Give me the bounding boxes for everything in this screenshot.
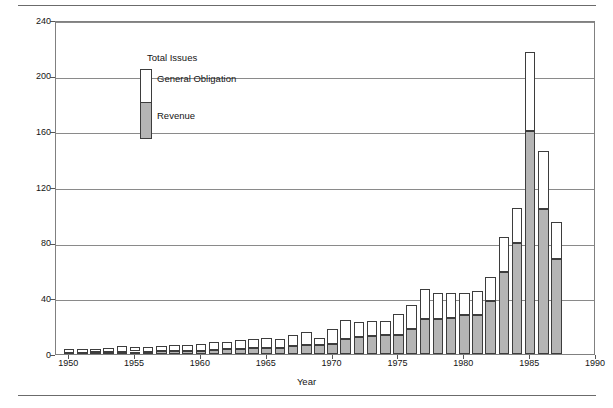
bar-1965 xyxy=(261,338,272,354)
bar-segment-revenue-1961 xyxy=(209,350,220,354)
bar-segment-revenue-1985 xyxy=(525,131,536,354)
plot-area: Total Issues General Obligation Revenue xyxy=(55,21,595,355)
bar-1970 xyxy=(327,329,338,354)
bar-segment-general-obligation-1972 xyxy=(354,322,365,337)
bar-1955 xyxy=(130,347,141,354)
bar-segment-revenue-1970 xyxy=(327,344,338,354)
bar-segment-general-obligation-1978 xyxy=(433,293,444,319)
bar-1951 xyxy=(77,349,88,354)
bar-1976 xyxy=(406,305,417,354)
bar-1979 xyxy=(446,293,457,354)
bar-1964 xyxy=(248,339,259,354)
bar-segment-revenue-1967 xyxy=(288,346,299,354)
bar-segment-general-obligation-1961 xyxy=(209,342,220,350)
bar-1986 xyxy=(538,151,549,354)
y-tick-mark-160 xyxy=(50,132,55,133)
bar-1980 xyxy=(459,293,470,354)
bar-1987 xyxy=(551,222,562,354)
bar-segment-general-obligation-1984 xyxy=(512,208,523,243)
legend-swatch-general-obligation xyxy=(140,69,152,103)
bar-segment-revenue-1971 xyxy=(340,339,351,354)
bar-segment-general-obligation-1968 xyxy=(301,332,312,345)
y-tick-label-200: 200 xyxy=(11,72,51,81)
y-tick-mark-120 xyxy=(50,188,55,189)
y-tick-label-160: 160 xyxy=(11,128,51,137)
x-tick-mark-1990 xyxy=(595,355,596,359)
x-tick-label-1980: 1980 xyxy=(453,359,473,368)
bar-segment-general-obligation-1964 xyxy=(248,339,259,348)
bar-1973 xyxy=(367,321,378,354)
bar-1957 xyxy=(156,346,167,354)
bar-1983 xyxy=(499,237,510,354)
bar-segment-general-obligation-1983 xyxy=(499,237,510,272)
bar-1960 xyxy=(196,344,207,354)
bar-segment-revenue-1975 xyxy=(393,335,404,354)
bar-segment-general-obligation-1975 xyxy=(393,314,404,335)
x-tick-label-1950: 1950 xyxy=(58,359,78,368)
bar-segment-general-obligation-1986 xyxy=(538,151,549,209)
bar-segment-revenue-1979 xyxy=(446,318,457,354)
bar-segment-general-obligation-1976 xyxy=(406,305,417,329)
bar-segment-general-obligation-1973 xyxy=(367,321,378,336)
bar-segment-revenue-1987 xyxy=(551,259,562,354)
bar-segment-general-obligation-1963 xyxy=(235,340,246,349)
bar-segment-general-obligation-1971 xyxy=(340,320,351,339)
bar-1961 xyxy=(209,342,220,354)
x-tick-mark-1950 xyxy=(68,355,69,359)
y-tick-mark-80 xyxy=(50,244,55,245)
gridline-240 xyxy=(56,22,594,23)
bar-segment-general-obligation-1982 xyxy=(485,277,496,301)
x-tick-mark-1965 xyxy=(266,355,267,359)
bar-segment-general-obligation-1985 xyxy=(525,52,536,131)
bar-segment-revenue-1955 xyxy=(130,352,141,355)
bar-segment-revenue-1959 xyxy=(182,351,193,354)
bar-1952 xyxy=(90,349,101,354)
bar-segment-revenue-1983 xyxy=(499,272,510,354)
bar-segment-revenue-1960 xyxy=(196,351,207,354)
x-tick-label-1975: 1975 xyxy=(387,359,407,368)
y-tick-label-120: 120 xyxy=(11,184,51,193)
page-rule-bottom xyxy=(18,395,596,396)
bar-segment-revenue-1968 xyxy=(301,345,312,354)
bar-segment-revenue-1964 xyxy=(248,348,259,354)
bar-segment-general-obligation-1980 xyxy=(459,293,470,315)
bar-1959 xyxy=(182,345,193,354)
x-tick-mark-1985 xyxy=(529,355,530,359)
legend-title: Total Issues xyxy=(147,53,197,63)
bar-segment-revenue-1957 xyxy=(156,351,167,354)
bar-1950 xyxy=(64,349,75,354)
bar-1969 xyxy=(314,338,325,354)
bar-segment-revenue-1958 xyxy=(169,351,180,354)
bar-segment-general-obligation-1974 xyxy=(380,321,391,335)
bar-segment-revenue-1974 xyxy=(380,335,391,354)
chart-figure: Billions of Dollars Year Total Issues Ge… xyxy=(0,0,613,408)
x-tick-label-1960: 1960 xyxy=(190,359,210,368)
x-tick-mark-1980 xyxy=(463,355,464,359)
bar-segment-revenue-1965 xyxy=(261,348,272,354)
bar-segment-revenue-1972 xyxy=(354,337,365,354)
x-tick-mark-1970 xyxy=(332,355,333,359)
bar-segment-revenue-1984 xyxy=(512,243,523,354)
bar-segment-revenue-1980 xyxy=(459,315,470,354)
bar-1977 xyxy=(420,289,431,354)
y-tick-mark-40 xyxy=(50,299,55,300)
bar-segment-general-obligation-1962 xyxy=(222,342,233,349)
bar-segment-general-obligation-1979 xyxy=(446,293,457,317)
bar-segment-revenue-1966 xyxy=(275,348,286,354)
legend-swatch xyxy=(140,69,152,139)
bar-1968 xyxy=(301,332,312,354)
y-tick-label-40: 40 xyxy=(11,295,51,304)
x-tick-mark-1960 xyxy=(200,355,201,359)
bar-segment-revenue-1963 xyxy=(235,349,246,354)
bar-segment-revenue-1986 xyxy=(538,209,549,354)
bar-segment-general-obligation-1981 xyxy=(472,291,483,315)
bar-segment-revenue-1981 xyxy=(472,315,483,354)
bar-1984 xyxy=(512,208,523,354)
bar-1953 xyxy=(103,348,114,354)
bar-1975 xyxy=(393,314,404,354)
bar-segment-revenue-1951 xyxy=(77,352,88,354)
bar-segment-revenue-1977 xyxy=(420,319,431,354)
y-tick-mark-0 xyxy=(50,355,55,356)
bar-1962 xyxy=(222,342,233,354)
bar-segment-general-obligation-1970 xyxy=(327,329,338,344)
